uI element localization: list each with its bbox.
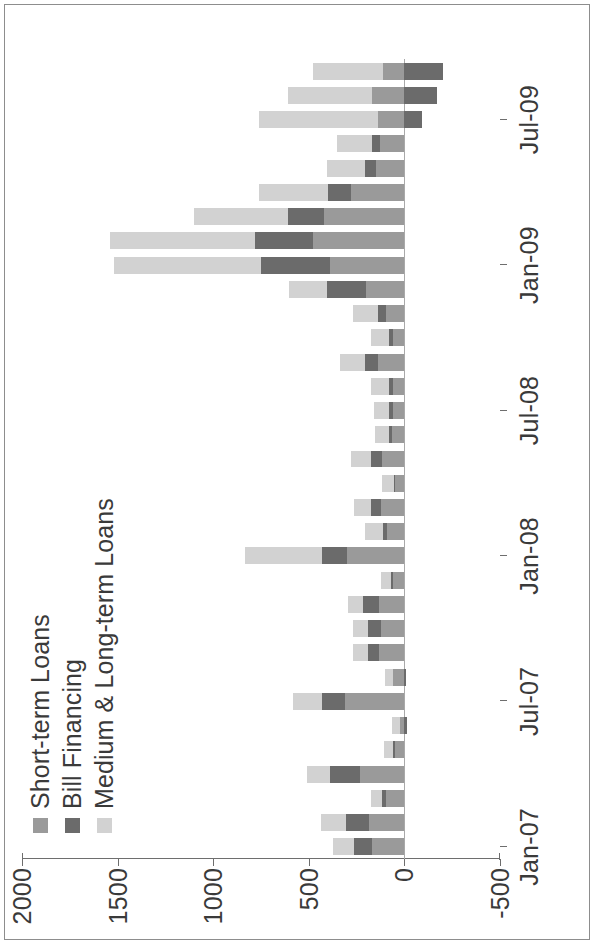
bar-group (22, 305, 500, 322)
bar-segment (404, 111, 421, 128)
figure-frame: Short-term LoansBill FinancingMedium & L… (4, 4, 590, 940)
bar-segment (322, 693, 345, 710)
bar-segment (313, 63, 384, 80)
bar-segment (353, 305, 378, 322)
bar-segment (347, 548, 404, 565)
bar-segment (371, 451, 382, 468)
bar-segment (354, 838, 372, 855)
bar-segment (321, 814, 346, 831)
bar-group (22, 548, 500, 565)
bar-segment (293, 693, 323, 710)
bar-segment (330, 766, 361, 783)
bar-segment (114, 257, 261, 274)
bar-group (22, 596, 500, 613)
bar-segment (110, 232, 255, 249)
value-axis-tick (500, 859, 501, 866)
bar-segment (313, 232, 405, 249)
bar-group (22, 790, 500, 807)
bar-segment (360, 766, 404, 783)
bar-segment (346, 814, 369, 831)
bar-segment (383, 523, 387, 540)
bar-group (22, 620, 500, 637)
bar-segment (383, 63, 404, 80)
bar-segment (255, 232, 312, 249)
category-axis-tick (500, 119, 507, 120)
bar-segment (386, 790, 404, 807)
value-axis-tick (309, 859, 310, 866)
bar-segment (371, 329, 389, 346)
bar-segment (387, 523, 404, 540)
bar-segment (261, 257, 330, 274)
bar-segment (288, 87, 372, 104)
bar-segment (328, 184, 351, 201)
bar-group (22, 523, 500, 540)
category-axis-tick-label: Jan-08 (515, 517, 544, 595)
value-axis-tick-label: 1500 (103, 868, 132, 924)
bar-segment (404, 63, 442, 80)
bar-segment (385, 669, 393, 686)
bar-segment (194, 208, 288, 225)
bar-segment (345, 693, 404, 710)
bar-segment (333, 838, 354, 855)
value-axis-tick-label: 2000 (8, 868, 37, 924)
bar-segment (371, 790, 382, 807)
bar-segment (372, 87, 405, 104)
bar-group (22, 354, 500, 371)
chart-area: Short-term LoansBill FinancingMedium & L… (6, 7, 588, 937)
bar-group (22, 451, 500, 468)
bar-segment (392, 426, 404, 443)
category-axis-tick-label: Jul-09 (515, 85, 544, 154)
bar-segment (393, 378, 404, 395)
value-axis-tick (118, 859, 119, 866)
bar-segment (368, 620, 381, 637)
bar-group (22, 281, 500, 298)
bar-segment (363, 596, 378, 613)
bar-segment (389, 329, 393, 346)
bar-segment (374, 402, 389, 419)
bar-segment (368, 644, 379, 661)
bar-segment (327, 281, 366, 298)
bar-segment (404, 87, 437, 104)
bar-group (22, 766, 500, 783)
category-axis-tick (500, 555, 507, 556)
bar-segment (395, 741, 405, 758)
bar-segment (393, 572, 404, 589)
bar-segment (381, 499, 404, 516)
bar-segment (330, 257, 405, 274)
category-axis-tick-label: Jul-07 (515, 667, 544, 736)
bar-segment (378, 305, 387, 322)
bar-group (22, 572, 500, 589)
bar-segment (353, 644, 368, 661)
bar-segment (393, 402, 404, 419)
bar-segment (404, 717, 407, 734)
bar-group (22, 499, 500, 516)
bar-segment (382, 475, 393, 492)
bar-group (22, 160, 500, 177)
bar-segment (351, 451, 371, 468)
bar-segment (379, 644, 405, 661)
bar-group (22, 402, 500, 419)
category-axis-tick-label: Jul-08 (515, 376, 544, 445)
bar-group (22, 838, 500, 855)
bar-group (22, 208, 500, 225)
value-axis-tick (404, 859, 405, 866)
bar-segment (327, 160, 365, 177)
bar-group (22, 232, 500, 249)
bar-segment (381, 620, 404, 637)
bar-group (22, 135, 500, 152)
bar-segment (348, 596, 363, 613)
bar-segment (378, 111, 405, 128)
bar-segment (395, 475, 405, 492)
category-axis-tick-label: Jan-07 (515, 808, 544, 886)
value-axis-tick-label: 500 (294, 868, 323, 910)
rotated-chart-wrapper: Short-term LoansBill FinancingMedium & L… (6, 7, 588, 937)
bar-segment (351, 184, 405, 201)
bar-group (22, 329, 500, 346)
bar-segment (389, 402, 393, 419)
bar-segment (322, 548, 347, 565)
bar-segment (307, 766, 330, 783)
bar-segment (245, 548, 322, 565)
bar-segment (380, 135, 405, 152)
bar-segment (389, 378, 393, 395)
bar-segment (371, 499, 382, 516)
